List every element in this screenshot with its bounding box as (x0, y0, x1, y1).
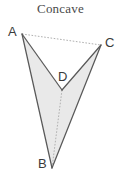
polygon-diagram-svg (0, 0, 121, 176)
vertex-label-a: A (8, 25, 17, 38)
polygon-fill-abcd (22, 34, 101, 168)
segment-a-c (22, 34, 101, 45)
vertex-label-b: B (38, 157, 47, 170)
concave-polygon-figure: Concave A C D B (0, 0, 121, 176)
vertex-label-c: C (105, 36, 114, 49)
vertex-label-d: D (58, 70, 67, 83)
